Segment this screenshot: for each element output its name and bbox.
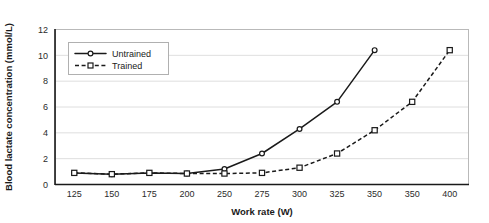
x-tick-label: 175 bbox=[142, 189, 157, 199]
legend-label-trained: Trained bbox=[112, 61, 142, 71]
y-tick-label: 2 bbox=[43, 154, 48, 164]
data-point-circle bbox=[297, 127, 302, 132]
x-tick-label: 150 bbox=[104, 189, 119, 199]
x-tick-label: 350 bbox=[367, 189, 382, 199]
data-point-square bbox=[147, 170, 152, 175]
chart-legend: Untrained Trained bbox=[69, 43, 169, 75]
x-tick-label: 300 bbox=[292, 189, 307, 199]
data-point-square bbox=[334, 151, 339, 156]
x-axis-title: Work rate (W) bbox=[231, 206, 293, 217]
y-tick-label: 6 bbox=[43, 102, 48, 112]
lactate-threshold-chart: 024681012 125150175200250275300325350350… bbox=[0, 0, 489, 223]
legend-label-untrained: Untrained bbox=[112, 49, 151, 59]
data-point-circle bbox=[372, 48, 377, 53]
data-point-square bbox=[222, 171, 227, 176]
y-tick-label: 10 bbox=[38, 51, 48, 61]
data-point-square bbox=[72, 170, 77, 175]
data-point-circle bbox=[260, 151, 265, 156]
y-tick-label: 4 bbox=[43, 128, 48, 138]
chart-svg: 024681012 125150175200250275300325350350… bbox=[0, 0, 489, 223]
x-tick-label: 325 bbox=[330, 189, 345, 199]
data-point-circle bbox=[335, 99, 340, 104]
data-point-square bbox=[372, 128, 377, 133]
open-square-icon bbox=[88, 63, 93, 68]
x-tick-label: 350 bbox=[405, 189, 420, 199]
y-tick-label: 12 bbox=[38, 25, 48, 35]
data-point-square bbox=[109, 172, 114, 177]
x-tick-label: 400 bbox=[442, 189, 457, 199]
y-axis-title: Blood lactate concentration (mmol/L) bbox=[3, 23, 14, 191]
y-tick-label: 8 bbox=[43, 76, 48, 86]
y-tick-label: 0 bbox=[43, 180, 48, 190]
x-tick-label: 200 bbox=[179, 189, 194, 199]
data-point-square bbox=[184, 171, 189, 176]
open-circle-icon bbox=[88, 51, 93, 56]
data-point-square bbox=[447, 48, 452, 53]
data-point-square bbox=[259, 170, 264, 175]
x-tick-label: 250 bbox=[217, 189, 232, 199]
data-point-square bbox=[297, 165, 302, 170]
data-point-square bbox=[410, 99, 415, 104]
x-tick-label: 275 bbox=[254, 189, 269, 199]
x-tick-label: 125 bbox=[67, 189, 82, 199]
